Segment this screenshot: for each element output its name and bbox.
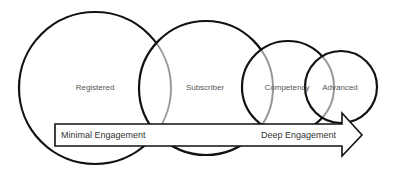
- label-advanced: Advanced: [322, 83, 358, 92]
- label-registered: Registered: [76, 83, 115, 92]
- label-competency: Competency: [265, 83, 310, 92]
- arrow-start-label: Minimal Engagement: [61, 130, 146, 140]
- engagement-arrow: Minimal Engagement Deep Engagement: [55, 113, 362, 156]
- arrow-end-label: Deep Engagement: [261, 130, 337, 140]
- label-subscriber: Subscriber: [186, 83, 225, 92]
- engagement-venn-diagram: Registered Subscriber Competency Advance…: [0, 0, 397, 172]
